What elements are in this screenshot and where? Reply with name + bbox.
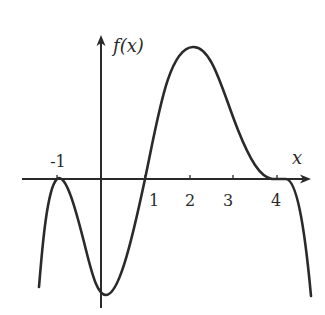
tick-label-3: 3 [223,191,233,210]
x-axis-label: x [292,147,302,168]
tick-label-neg1: -1 [50,152,66,171]
function-graph: -1 1 2 3 4 f(x) x [0,0,325,315]
tick-label-1: 1 [149,191,159,210]
y-axis-label: f(x) [111,35,144,56]
tick-label-4: 4 [271,191,281,210]
tick-label-2: 2 [185,191,195,210]
function-curve [39,47,311,296]
